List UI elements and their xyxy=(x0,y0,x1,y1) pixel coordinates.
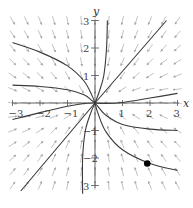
field-arrow-icon xyxy=(134,44,138,52)
y-tick-label: 3 xyxy=(83,181,89,192)
field-arrow-icon xyxy=(108,57,110,66)
y-tick-label: 3 xyxy=(83,16,89,27)
field-arrow-icon xyxy=(23,58,29,65)
field-arrow-icon xyxy=(108,16,109,25)
field-arrow-icon xyxy=(38,44,42,52)
y-axis-label: y xyxy=(92,5,100,18)
field-arrow-icon xyxy=(66,140,70,148)
field-arrow-icon xyxy=(81,167,82,176)
field-arrow-icon xyxy=(173,89,182,90)
field-arrow-icon xyxy=(10,45,16,52)
field-arrow-icon xyxy=(81,16,82,25)
field-arrow-icon xyxy=(24,16,28,24)
field-arrow-icon xyxy=(175,168,180,175)
field-arrow-icon xyxy=(121,44,124,53)
field-arrow-icon xyxy=(52,44,56,52)
field-arrow-icon xyxy=(8,129,16,132)
field-arrow-icon xyxy=(38,181,42,189)
field-arrow-icon xyxy=(161,141,167,148)
field-arrow-icon xyxy=(121,58,125,66)
field-arrow-icon xyxy=(174,141,181,147)
field-arrow-icon xyxy=(107,71,110,80)
field-arrow-icon xyxy=(148,181,151,189)
field-arrow-icon xyxy=(108,30,109,39)
field-arrow-icon xyxy=(175,155,181,162)
field-arrow-icon xyxy=(38,16,41,24)
field-arrow-icon xyxy=(147,44,152,51)
field-arrow-icon xyxy=(135,168,138,176)
field-arrow-icon xyxy=(81,30,82,39)
field-arrow-icon xyxy=(147,58,153,65)
field-arrow-icon xyxy=(22,87,30,91)
field-arrow-icon xyxy=(134,58,139,65)
field-arrow-icon xyxy=(36,128,44,133)
field-arrow-icon xyxy=(66,167,68,176)
y-tick-label: 2 xyxy=(83,43,89,54)
field-arrow-icon xyxy=(52,16,55,25)
field-arrow-icon xyxy=(108,140,110,149)
field-arrow-icon xyxy=(146,73,154,78)
field-arrow-icon xyxy=(160,115,168,119)
field-arrow-icon xyxy=(175,182,179,190)
field-arrow-icon xyxy=(81,154,82,163)
field-arrow-icon xyxy=(107,126,110,135)
field-arrow-icon xyxy=(65,72,69,80)
marked-point xyxy=(144,160,151,167)
field-arrow-icon xyxy=(122,181,124,190)
field-arrow-icon xyxy=(9,155,16,161)
field-arrow-icon xyxy=(66,154,69,163)
field-arrow-icon xyxy=(134,140,138,148)
field-arrow-icon xyxy=(22,129,30,133)
field-arrow-icon xyxy=(9,142,17,147)
field-arrow-icon xyxy=(121,140,124,148)
x-tick-label: 1 xyxy=(119,108,125,119)
field-arrow-icon xyxy=(161,154,166,161)
field-arrow-icon xyxy=(37,154,42,161)
x-tick-label: 3 xyxy=(174,108,180,119)
field-arrow-icon xyxy=(23,73,30,79)
field-arrow-icon xyxy=(24,30,28,38)
field-arrow-icon xyxy=(160,59,167,65)
x-tick-label: −1 xyxy=(64,108,79,119)
field-arrow-icon xyxy=(81,44,82,53)
field-arrow-icon xyxy=(146,88,155,90)
field-arrow-icon xyxy=(121,167,123,176)
field-arrow-icon xyxy=(133,114,140,119)
field-arrow-icon xyxy=(10,182,15,189)
field-arrow-icon xyxy=(162,181,166,189)
field-arrow-icon xyxy=(148,168,152,176)
field-arrow-icon xyxy=(108,167,109,176)
field-arrow-icon xyxy=(121,30,123,39)
field-arrow-icon xyxy=(108,181,109,190)
field-arrow-icon xyxy=(9,73,16,78)
field-arrow-icon xyxy=(133,72,140,78)
phase-portrait: −3−2−1123321−1−23 x y xyxy=(0,0,193,208)
field-arrow-icon xyxy=(38,30,42,38)
field-arrow-icon xyxy=(52,181,55,190)
field-arrow-icon xyxy=(36,87,44,91)
field-arrow-icon xyxy=(37,141,43,148)
field-arrow-icon xyxy=(160,74,168,78)
y-tick-label: 1 xyxy=(83,71,89,82)
field-arrow-icon xyxy=(148,16,152,24)
solution-curve-lower-left-line xyxy=(21,103,95,191)
field-arrow-icon xyxy=(120,127,124,135)
field-arrow-icon xyxy=(10,31,15,38)
field-arrow-icon xyxy=(162,168,166,176)
field-arrow-icon xyxy=(23,155,29,162)
field-arrow-icon xyxy=(81,181,82,190)
field-arrow-icon xyxy=(52,30,55,38)
field-arrow-icon xyxy=(175,17,180,24)
field-arrow-icon xyxy=(51,141,56,148)
field-arrow-icon xyxy=(10,17,14,25)
field-arrow-icon xyxy=(51,72,57,79)
field-arrow-icon xyxy=(122,16,124,25)
field-arrow-icon xyxy=(161,45,167,52)
field-arrow-icon xyxy=(66,30,68,39)
field-arrow-icon xyxy=(37,72,44,78)
field-arrow-icon xyxy=(174,59,182,64)
field-arrow-icon xyxy=(108,44,109,53)
y-tick-label: −2 xyxy=(83,153,98,164)
field-arrow-icon xyxy=(173,74,181,77)
field-arrow-icon xyxy=(52,154,56,162)
